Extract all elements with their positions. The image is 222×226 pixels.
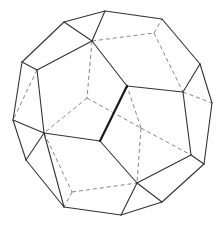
hidden-edge	[183, 92, 212, 103]
edge	[162, 164, 204, 202]
edge	[183, 64, 200, 92]
polyhedron-diagram	[0, 0, 222, 226]
highlighted-edges	[100, 86, 127, 141]
edge	[183, 92, 191, 155]
hidden-edge	[44, 98, 87, 133]
highlighted-edge	[100, 86, 127, 141]
edge	[64, 11, 105, 22]
edge	[22, 62, 37, 70]
hidden-edge	[154, 19, 162, 33]
edge	[121, 202, 162, 215]
edge	[13, 120, 44, 133]
edge	[37, 70, 44, 133]
edge	[44, 133, 100, 141]
edge	[26, 133, 44, 160]
edge	[13, 120, 26, 160]
edge	[92, 41, 127, 86]
edge	[100, 141, 137, 183]
edge	[26, 160, 64, 207]
edge	[137, 183, 162, 202]
edge	[105, 11, 162, 19]
edge	[162, 19, 200, 64]
hidden-edge	[64, 192, 72, 207]
edge	[92, 11, 105, 41]
hidden-edge	[154, 33, 183, 92]
edge	[22, 22, 64, 62]
edge	[64, 22, 92, 41]
edge	[191, 155, 204, 164]
visible-edges	[13, 11, 212, 215]
hidden-edge	[72, 183, 137, 192]
hidden-edge	[127, 86, 141, 128]
hidden-edge	[141, 128, 191, 155]
hidden-edge	[137, 128, 141, 183]
edge	[44, 133, 64, 207]
edge	[127, 86, 183, 92]
edge	[204, 103, 212, 164]
edge	[37, 41, 92, 70]
hidden-edge	[87, 41, 92, 98]
edge	[64, 207, 121, 215]
hidden-edges	[13, 19, 212, 207]
hidden-edge	[92, 33, 154, 41]
edge	[200, 64, 212, 103]
edge	[137, 155, 191, 183]
